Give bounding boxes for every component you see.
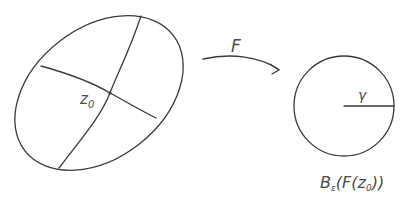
z0-label: z0 [79, 90, 94, 110]
map-arrow [203, 56, 278, 69]
ball-caption: Bε(F(z0)) [320, 173, 384, 193]
diagram-canvas: z0 F γ Bε(F(z0)) [0, 0, 412, 201]
ellipse-major-axis [59, 16, 141, 168]
arrow-head-icon [270, 64, 279, 74]
ellipse-minor-axis [41, 66, 156, 118]
radius-label: γ [358, 87, 367, 103]
center-point [108, 91, 111, 94]
map-label-F: F [231, 36, 241, 56]
